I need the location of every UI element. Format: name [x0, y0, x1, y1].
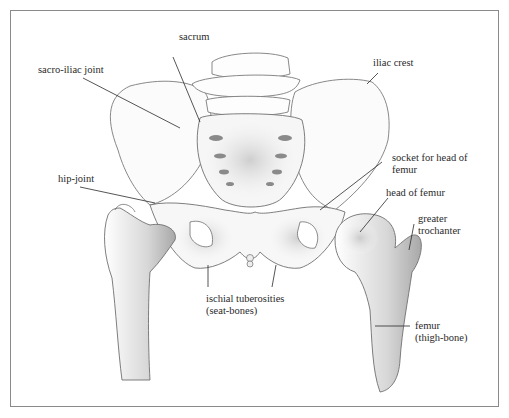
sacrum-bone	[197, 114, 305, 207]
label-socket-line2: femur	[392, 164, 468, 176]
label-femur: femur (thigh-bone)	[415, 320, 468, 344]
label-head-of-femur: head of femur	[386, 187, 445, 199]
label-ischial-line1: ischial tuberosities	[206, 293, 284, 305]
right-ilium	[291, 79, 389, 210]
label-ischial-tuberosities: ischial tuberosities (seat-bones)	[206, 293, 284, 317]
leader-ischial-right	[272, 265, 276, 287]
label-iliac-crest: iliac crest	[373, 57, 414, 69]
label-sacro-iliac-joint: sacro-iliac joint	[38, 64, 104, 76]
lumbar-vertebrae	[192, 53, 300, 116]
label-greater-trochanter: greater trochanter	[418, 213, 461, 237]
label-socket-for-head-of-femur: socket for head of femur	[392, 152, 468, 176]
label-femur-line2: (thigh-bone)	[415, 332, 468, 344]
pelvis-illustration	[0, 0, 509, 418]
label-hip-joint: hip-joint	[58, 173, 94, 185]
left-femur	[105, 204, 176, 380]
pubis	[150, 203, 345, 268]
label-femur-line1: femur	[415, 320, 468, 332]
label-socket-line1: socket for head of	[392, 152, 468, 164]
detached-femur	[335, 214, 421, 392]
label-ischial-line2: (seat-bones)	[206, 305, 284, 317]
label-greater-trochanter-line2: trochanter	[418, 225, 461, 237]
label-sacrum: sacrum	[179, 31, 209, 43]
label-greater-trochanter-line1: greater	[418, 213, 461, 225]
